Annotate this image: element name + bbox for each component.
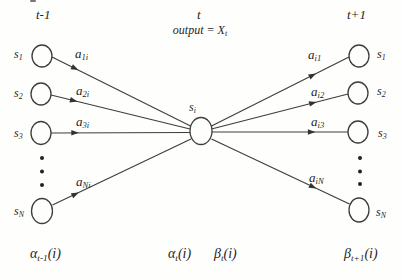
dot-icon	[358, 182, 362, 186]
node-s1-left	[32, 45, 52, 67]
alpha-prev-label: αt-1(i)	[30, 247, 61, 261]
transition-label-a2i: a2i	[76, 84, 89, 97]
state-label-sN-left: sN	[14, 205, 24, 217]
dot-icon	[40, 156, 44, 160]
state-label-s2-left: s2	[14, 87, 23, 99]
output-label-base: output = X	[173, 23, 225, 37]
state-sub: 3	[19, 132, 23, 141]
node-si-center	[190, 118, 212, 145]
line-si-to-s1	[212, 57, 350, 126]
state-label-s3-right: s3	[378, 127, 387, 139]
state-sub: 2	[19, 92, 23, 101]
arrowhead-ai2-icon	[309, 99, 318, 106]
alpha-current-label: αt(i)	[168, 247, 191, 261]
trans-sub: Ni	[83, 180, 91, 190]
greek-base: β	[344, 246, 351, 261]
arrowhead-a2i-icon	[69, 97, 78, 104]
dot-icon	[358, 170, 362, 174]
state-sub: 2	[382, 90, 386, 99]
node-s2-left	[31, 83, 51, 105]
node-sN-right	[349, 198, 369, 222]
arrowhead-a1i-icon	[70, 64, 79, 72]
arrowhead-aNi-icon	[71, 190, 80, 198]
transition-label-a1i: a1i	[75, 47, 88, 60]
trans-sub: i3	[318, 120, 325, 130]
node-s3-left	[31, 122, 51, 145]
beta-current-label: βt(i)	[214, 247, 237, 261]
node-s2-right	[348, 82, 368, 104]
transition-label-aiN: aiN	[309, 171, 324, 184]
state-label-s1-right: s1	[377, 48, 386, 60]
greek-sub: t-1	[37, 253, 47, 263]
greek-sub: t+1	[351, 253, 364, 263]
time-label-prev: t-1	[36, 8, 50, 21]
greek-suffix: (i)	[48, 246, 61, 261]
arrowhead-ai3-icon	[308, 129, 316, 135]
state-label-s3-left: s3	[14, 127, 23, 139]
dot-icon	[40, 183, 44, 187]
hmm-trellis-diagram: t-1 t t+1 output = Xt s1 s2 s3 sN si s1 …	[0, 0, 402, 280]
state-sub: N	[19, 210, 24, 219]
dot-icon	[358, 156, 362, 160]
state-sub: 1	[19, 53, 23, 62]
state-sub: N	[381, 211, 386, 220]
transition-label-ai1: ai1	[308, 48, 321, 61]
diagram-canvas	[0, 0, 402, 280]
greek-base: β	[214, 246, 221, 261]
trans-sub: iN	[316, 176, 324, 186]
greek-suffix: (i)	[178, 246, 191, 261]
dot-icon	[40, 170, 44, 174]
output-label-sub: t	[225, 29, 227, 38]
trans-sub: 3i	[83, 120, 90, 130]
state-label-sN-right: sN	[376, 206, 386, 218]
state-label-s2-right: s2	[377, 85, 386, 97]
time-label-next: t+1	[347, 8, 366, 21]
trans-sub: 2i	[83, 89, 90, 99]
ellipsis-dots-left	[40, 156, 44, 187]
transition-label-ai2: ai2	[311, 85, 324, 98]
transition-label-aNi: aNi	[76, 175, 91, 188]
time-label-current: t	[197, 8, 201, 21]
arrowhead-a3i-icon	[71, 130, 79, 136]
beta-next-label: βt+1(i)	[344, 247, 378, 261]
greek-suffix: (i)	[224, 246, 237, 261]
arrowhead-ai1-icon	[308, 71, 317, 79]
state-sub: 3	[383, 132, 387, 141]
scan-artifact	[30, 0, 36, 2]
state-sub: 1	[382, 53, 386, 62]
node-s1-right	[349, 45, 369, 67]
trans-sub: i2	[318, 90, 325, 100]
node-s3-right	[348, 121, 368, 143]
state-sub: i	[194, 106, 196, 115]
transition-label-a3i: a3i	[76, 115, 89, 128]
state-label-si-center: si	[189, 101, 196, 113]
node-sN-left	[32, 199, 53, 224]
greek-suffix: (i)	[364, 246, 377, 261]
line-si-to-sN	[212, 139, 350, 204]
ellipsis-dots-right	[358, 156, 362, 186]
trans-sub: i1	[315, 53, 322, 63]
output-label: output = Xt	[168, 24, 232, 36]
transition-label-ai3: ai3	[311, 115, 324, 128]
state-label-s1-left: s1	[14, 48, 23, 60]
trans-sub: 1i	[82, 52, 89, 62]
line-si-to-s2	[212, 94, 349, 129]
